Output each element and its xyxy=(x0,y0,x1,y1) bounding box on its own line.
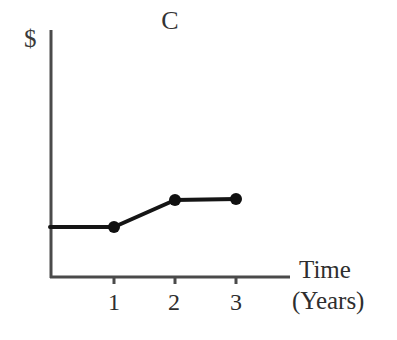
chart-figure: C $ Time (Years) 1 2 3 xyxy=(0,0,397,340)
x-tick-label-1: 1 xyxy=(99,290,129,314)
x-tick-label-3: 3 xyxy=(221,290,251,314)
chart-title: C xyxy=(0,8,340,34)
data-point-marker xyxy=(230,193,242,205)
data-point-marker xyxy=(108,221,120,233)
y-axis-label: $ xyxy=(24,26,37,51)
data-point-marker xyxy=(169,194,181,206)
x-axis-label: Time xyxy=(299,257,351,282)
x-tick-label-2: 2 xyxy=(159,290,189,314)
x-axis-label-units: (Years) xyxy=(292,288,364,313)
